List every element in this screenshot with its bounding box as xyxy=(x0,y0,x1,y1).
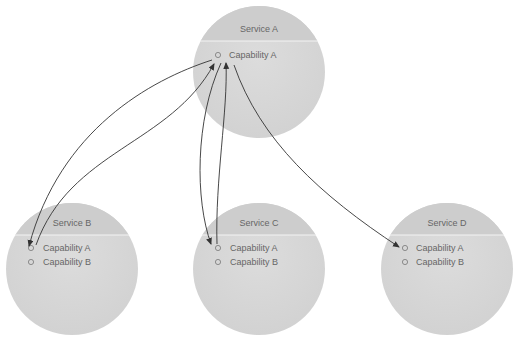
service-d-capability-b: Capability B xyxy=(416,257,464,267)
service-d-node[interactable]: Service D Capability A Capability B xyxy=(381,203,513,335)
service-c-capability-b: Capability B xyxy=(230,257,278,267)
service-d-title: Service D xyxy=(427,218,467,228)
service-a-title: Service A xyxy=(240,24,278,34)
service-d-capability-a: Capability A xyxy=(416,243,464,253)
service-b-node[interactable]: Service B Capability A Capability B xyxy=(6,203,138,335)
service-b-capability-a: Capability A xyxy=(43,243,91,253)
service-a-node[interactable]: Service A Capability A xyxy=(193,6,325,138)
service-c-capability-a: Capability A xyxy=(230,243,278,253)
service-b-capability-b: Capability B xyxy=(43,257,91,267)
service-diagram: Service A Capability A Service B Capabil… xyxy=(0,0,517,339)
service-c-node[interactable]: Service C Capability A Capability B xyxy=(193,203,325,335)
service-a-capability-a: Capability A xyxy=(229,50,277,60)
service-c-title: Service C xyxy=(239,218,279,228)
service-b-title: Service B xyxy=(53,218,92,228)
